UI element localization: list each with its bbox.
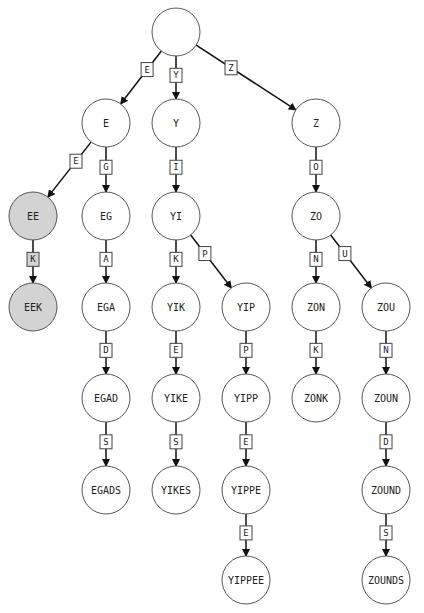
edge-label: S [383, 528, 388, 538]
edge-label: Z [228, 63, 234, 73]
edge-label-box: S [170, 435, 182, 449]
node-label: EE [27, 211, 39, 222]
node-label: ZOUN [374, 393, 398, 404]
trie-node-yip: YIP [222, 283, 270, 331]
edge-label-box: E [170, 343, 182, 357]
node-label: YIPPEE [228, 575, 264, 586]
edge-label: D [383, 437, 388, 447]
edge-label-box: Z [225, 61, 237, 75]
trie-edge [191, 235, 232, 288]
edge-label: N [383, 345, 388, 355]
trie-node-yike: YIKE [152, 374, 200, 422]
trie-node-egad: EGAD [82, 374, 130, 422]
edge-label: A [103, 254, 109, 264]
node-label: YIPPE [231, 485, 261, 496]
trie-node-egads: EGADS [82, 466, 130, 514]
trie-node-zou: ZOU [362, 283, 410, 331]
node-circle [152, 8, 200, 56]
edge-label-box: S [380, 526, 392, 540]
edge-label: E [243, 437, 248, 447]
edge-label: U [342, 249, 347, 259]
node-label: ZOUNDS [368, 575, 404, 586]
edge-label-box: E [141, 63, 153, 77]
trie-node-yi: YI [152, 192, 200, 240]
trie-node-yipp: YIPP [222, 374, 270, 422]
edge-label-box: K [27, 252, 39, 266]
trie-node-root [152, 8, 200, 56]
edge-label: K [30, 254, 36, 264]
edge-label-box: O [310, 160, 322, 174]
trie-edge [48, 142, 91, 197]
node-label: YIPP [234, 393, 258, 404]
edge-label: P [202, 249, 208, 259]
edge-label-box: P [199, 247, 211, 261]
arrow-icon [196, 45, 296, 110]
edge-label-box: E [240, 526, 252, 540]
edge-label: K [173, 254, 179, 264]
edge-label-box: U [339, 247, 351, 261]
trie-node-ee: EE [9, 192, 57, 240]
edge-label-box: P [240, 343, 252, 357]
edge-label-box: E [240, 435, 252, 449]
trie-node-eek: EEK [9, 283, 57, 331]
node-label: Y [173, 118, 179, 129]
trie-edge [121, 51, 162, 104]
edge-label: Y [173, 70, 179, 80]
trie-edge [196, 45, 296, 110]
trie-node-yik: YIK [152, 283, 200, 331]
node-label: YI [170, 211, 182, 222]
edge-label: E [144, 65, 149, 75]
arrow-icon [48, 142, 91, 197]
arrow-icon [121, 51, 162, 104]
node-label: ZON [307, 302, 325, 313]
node-label: YIKES [161, 485, 191, 496]
arrow-icon [191, 235, 232, 288]
node-label: Z [313, 118, 319, 129]
trie-node-yippe: YIPPE [222, 466, 270, 514]
edge-label: E [243, 528, 248, 538]
edge-label: P [243, 345, 249, 355]
edge-label-box: K [170, 252, 182, 266]
trie-node-ega: EGA [82, 283, 130, 331]
edge-label: S [103, 437, 108, 447]
edge-label: O [313, 162, 318, 172]
nodes-layer: EYZEEEGYIZOEEKEGAYIKYIPZONZOUEGADYIKEYIP… [9, 8, 410, 604]
trie-node-e: E [82, 99, 130, 147]
node-label: EGAD [94, 393, 118, 404]
trie-node-zon: ZON [292, 283, 340, 331]
trie-edge [331, 235, 372, 288]
edge-label-box: I [170, 160, 182, 174]
edge-label: I [173, 162, 178, 172]
arrow-icon [331, 235, 372, 288]
node-label: E [103, 118, 109, 129]
edge-label-box: E [70, 154, 82, 168]
edge-label-box: D [100, 343, 112, 357]
trie-node-yippee: YIPPEE [222, 556, 270, 604]
node-label: ZOU [377, 302, 395, 313]
trie-node-y: Y [152, 99, 200, 147]
trie-node-eg: EG [82, 192, 130, 240]
trie-node-zound: ZOUND [362, 466, 410, 514]
trie-diagram: EYZEEEGYIZOEEKEGAYIKYIPZONZOUEGADYIKEYIP… [0, 0, 424, 613]
node-label: ZO [310, 211, 322, 222]
node-label: EEK [24, 302, 42, 313]
node-label: EG [100, 211, 112, 222]
edge-label-box: N [380, 343, 392, 357]
trie-node-yikes: YIKES [152, 466, 200, 514]
edge-label-box: G [100, 160, 112, 174]
node-label: YIP [237, 302, 255, 313]
node-label: YIKE [164, 393, 188, 404]
edge-label: S [173, 437, 178, 447]
node-label: ZONK [304, 393, 328, 404]
trie-node-zoun: ZOUN [362, 374, 410, 422]
trie-node-zo: ZO [292, 192, 340, 240]
node-label: EGA [97, 302, 115, 313]
edge-label: N [313, 254, 318, 264]
node-label: EGADS [91, 485, 121, 496]
edge-label: E [73, 156, 78, 166]
edge-label: E [173, 345, 178, 355]
edge-label-box: N [310, 252, 322, 266]
edge-label-box: D [380, 435, 392, 449]
edge-label-box: A [100, 252, 112, 266]
trie-node-z: Z [292, 99, 340, 147]
